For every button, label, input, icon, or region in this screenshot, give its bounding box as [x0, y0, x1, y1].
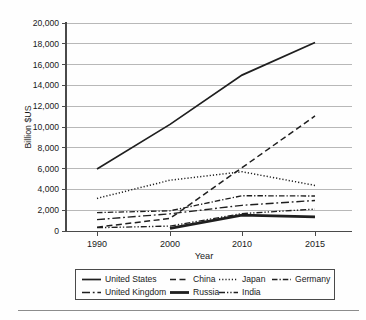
tick-label-layer: 02,0004,0006,0008,00010,00012,00014,0001… — [33, 18, 325, 249]
figure-divider — [18, 310, 359, 311]
y-tick-label: 4,000 — [37, 184, 59, 194]
legend-item-india: India — [219, 287, 261, 298]
series-line-russia — [170, 215, 315, 228]
y-tick-label: 0 — [54, 226, 59, 236]
y-tick-label: 10,000 — [33, 122, 60, 132]
india-line-sample-icon — [219, 289, 238, 296]
legend-item-united-kingdom: United Kingdom — [82, 287, 166, 298]
united-kingdom-line-sample-icon — [82, 289, 101, 296]
legend-item-china: China — [170, 274, 215, 285]
gdp-line-chart: 02,0004,0006,0008,00010,00012,00014,0001… — [0, 0, 366, 265]
x-tick-label: 2010 — [232, 239, 252, 249]
legend-label: Japan — [242, 274, 265, 285]
gdp-figure: 02,0004,0006,0008,00010,00012,00014,0001… — [0, 0, 366, 320]
legend-item-germany: Germany — [272, 274, 330, 285]
legend-label: Russia — [193, 287, 219, 298]
y-tick-label: 6,000 — [37, 164, 59, 174]
germany-line-sample-icon — [272, 276, 291, 283]
chart-legend: United StatesChinaJapanGermanyUnited Kin… — [75, 269, 335, 300]
legend-label: India — [242, 287, 261, 298]
y-tick-label: 16,000 — [33, 60, 60, 70]
legend-item-united-states: United States — [82, 274, 157, 285]
y-tick-label: 2,000 — [37, 205, 59, 215]
x-tick-label: 2015 — [305, 239, 325, 249]
grid-layer — [66, 23, 352, 231]
legend-label: Germany — [295, 274, 330, 285]
series-layer — [97, 43, 315, 229]
legend-label: United Kingdom — [105, 287, 166, 298]
china-line-sample-icon — [170, 276, 189, 283]
y-tick-label: 14,000 — [33, 80, 60, 90]
y-tick-label: 12,000 — [33, 101, 60, 111]
japan-line-sample-icon — [219, 276, 238, 283]
x-axis-title: Year — [195, 251, 214, 261]
legend-item-russia: Russia — [170, 287, 219, 298]
y-tick-label: 18,000 — [33, 39, 60, 49]
y-axis-title: Billion $US — [23, 105, 33, 148]
axis-layer — [62, 22, 316, 236]
y-tick-label: 8,000 — [37, 143, 59, 153]
x-tick-label: 1990 — [87, 239, 107, 249]
y-tick-label: 20,000 — [33, 18, 60, 28]
united-states-line-sample-icon — [82, 276, 101, 283]
series-line-japan — [97, 172, 315, 199]
russia-line-sample-icon — [170, 289, 189, 296]
legend-label: United States — [105, 274, 157, 285]
x-tick-label: 2000 — [160, 239, 180, 249]
legend-label: China — [193, 274, 215, 285]
legend-item-japan: Japan — [219, 274, 265, 285]
